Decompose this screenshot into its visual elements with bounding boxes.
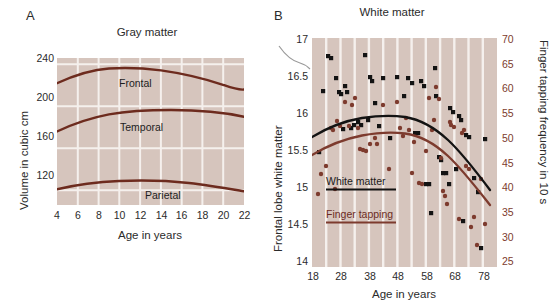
panel-b-ytick-left-15-5: 15.5 <box>276 144 308 156</box>
panel-a-ytick-120: 120 <box>24 169 54 181</box>
panel-b-ytick-right-30: 30 <box>502 231 514 243</box>
panel-b-xtick-28: 28 <box>332 270 350 282</box>
panel-b-x-axis-label: Age in years <box>324 288 484 300</box>
panel-b-ytick-right-60: 60 <box>502 82 514 94</box>
panel-b-y-axis-label-right: Finger tapping frequency in 10 s <box>538 40 550 204</box>
panel-b-ytick-right-70: 70 <box>502 33 514 45</box>
panel-a-y-axis-label: Volume in cubic cm <box>18 111 30 210</box>
panel-b-plot-area: White matter Finger tapping <box>312 38 497 267</box>
panel-a-ytick-160: 160 <box>24 130 54 142</box>
panel-a-xtick-6: 6 <box>70 209 86 221</box>
panel-b-ytick-right-50: 50 <box>502 132 514 144</box>
panel-a-xtick-8: 8 <box>91 209 107 221</box>
panel-a-title: Gray matter <box>52 26 242 38</box>
panel-b-ytick-left-14-5: 14.5 <box>276 218 308 230</box>
panel-b-ytick-right-55: 55 <box>502 107 514 119</box>
panel-b-ytick-right-35: 35 <box>502 206 514 218</box>
panel-a-xtick-16: 16 <box>173 209 190 221</box>
panel-a-xtick-10: 10 <box>111 209 128 221</box>
panel-b-ytick-left-16-0: 16 <box>276 107 308 119</box>
panel-b-xtick-38: 38 <box>361 270 379 282</box>
panel-a: A Gray matter Volume in cubic cm 240 200… <box>0 0 262 308</box>
panel-b-ytick-left-14-0: 14 <box>276 255 308 267</box>
panel-b-plot-svg: White matter Finger tapping <box>312 38 497 267</box>
panel-b-ytick-right-25: 25 <box>502 255 514 267</box>
panel-a-xtick-18: 18 <box>194 209 211 221</box>
figure-root: A Gray matter Volume in cubic cm 240 200… <box>0 0 557 308</box>
panel-b-ytick-right-45: 45 <box>502 157 514 169</box>
panel-b-xtick-48: 48 <box>389 270 407 282</box>
panel-b-xtick-78: 78 <box>475 270 493 282</box>
panel-a-letter: A <box>26 8 35 23</box>
panel-b-axis-break-icon <box>278 44 312 72</box>
panel-b-xtick-68: 68 <box>446 270 464 282</box>
panel-a-label-temporal: Temporal <box>120 121 163 133</box>
panel-b-xtick-18: 18 <box>304 270 322 282</box>
panel-b-title: White matter <box>302 6 482 18</box>
panel-b-legend-label-finger-tapping: Finger tapping <box>326 208 393 220</box>
panel-a-label-parietal: Parietal <box>145 189 181 201</box>
panel-b-ytick-right-40: 40 <box>502 181 514 193</box>
panel-a-xtick-4: 4 <box>49 209 65 221</box>
panel-a-ytick-240: 240 <box>24 52 54 64</box>
panel-b: B White matter Frontal lobe white matter… <box>262 0 557 308</box>
panel-a-xtick-20: 20 <box>215 209 232 221</box>
panel-a-x-axis-label: Age in years <box>70 229 230 241</box>
panel-b-legend-label-white-matter: White matter <box>326 175 386 187</box>
panel-a-xtick-12: 12 <box>132 209 149 221</box>
panel-a-xtick-22: 22 <box>236 209 253 221</box>
panel-b-letter: B <box>274 8 283 23</box>
panel-a-ytick-200: 200 <box>24 91 54 103</box>
panel-b-ytick-left-15-0: 15 <box>276 181 308 193</box>
panel-a-xtick-14: 14 <box>153 209 170 221</box>
panel-b-xtick-58: 58 <box>418 270 436 282</box>
panel-a-label-frontal: Frontal <box>119 77 152 89</box>
panel-b-ytick-right-65: 65 <box>502 58 514 70</box>
